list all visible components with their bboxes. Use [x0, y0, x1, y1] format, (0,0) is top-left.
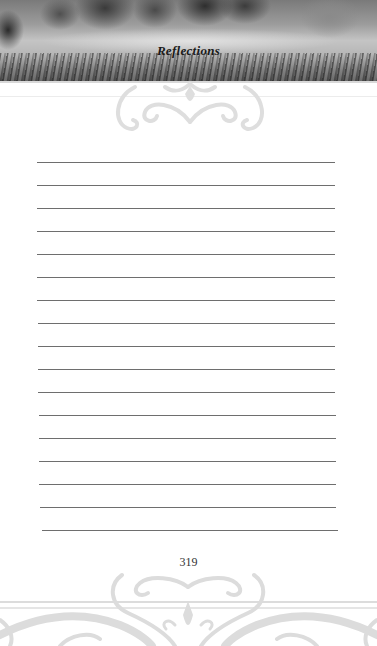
writing-lines — [0, 0, 377, 646]
writing-line[interactable] — [39, 484, 336, 485]
writing-line[interactable] — [38, 392, 335, 393]
writing-line[interactable] — [40, 507, 336, 508]
writing-line[interactable] — [37, 277, 335, 278]
writing-line[interactable] — [37, 162, 335, 163]
writing-line[interactable] — [37, 208, 335, 209]
writing-line[interactable] — [37, 300, 335, 301]
writing-line[interactable] — [38, 323, 335, 324]
writing-line[interactable] — [38, 346, 335, 347]
flourish-ornament-bottom — [0, 565, 377, 646]
writing-line[interactable] — [39, 415, 336, 416]
writing-line[interactable] — [39, 461, 336, 462]
writing-line[interactable] — [42, 530, 338, 531]
writing-line[interactable] — [37, 254, 335, 255]
writing-line[interactable] — [39, 438, 336, 439]
writing-line[interactable] — [38, 369, 335, 370]
writing-line[interactable] — [37, 231, 335, 232]
writing-line[interactable] — [37, 185, 335, 186]
